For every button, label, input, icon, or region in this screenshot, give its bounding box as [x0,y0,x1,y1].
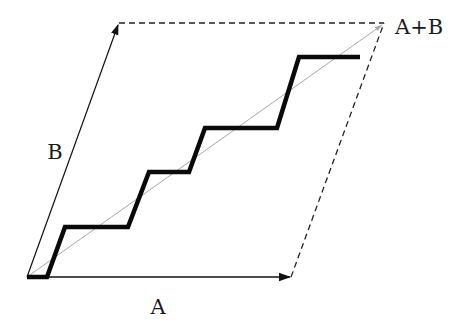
resultant-diagonal-arrow [27,25,382,277]
dashed-right-edge [291,23,384,277]
label-a-plus-b: A+B [394,15,443,39]
vector-b-arrow [27,25,118,277]
label-b: B [47,140,62,164]
label-a: A [149,295,166,319]
staircase-path [27,57,360,277]
vector-sum-parallelogram-diagram: B A A+B [0,0,465,327]
